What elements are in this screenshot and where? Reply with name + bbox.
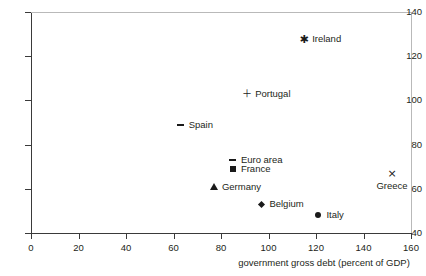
x-tick-mark — [79, 233, 80, 239]
data-point-label: Italy — [326, 210, 343, 220]
y-tick-mark — [25, 189, 31, 190]
x-tick-label: 60 — [159, 242, 189, 253]
plus-marker: ＋ — [242, 89, 252, 99]
y-tick-mark — [25, 100, 31, 101]
y-tick-label: 120 — [400, 51, 422, 61]
data-point-label: France — [241, 164, 271, 174]
y-tick-mark — [25, 56, 31, 57]
asterisk-marker: ✱ — [300, 33, 309, 44]
x-tick-label: 100 — [254, 242, 284, 253]
x-tick-label: 120 — [301, 242, 331, 253]
x-tick-mark — [31, 233, 32, 239]
x-tick-label: 40 — [111, 242, 141, 253]
x-axis-title: government gross debt (percent of GDP) — [231, 257, 417, 269]
x-tick-mark — [316, 233, 317, 239]
dash-marker — [229, 159, 236, 161]
x-tick-mark — [269, 233, 270, 239]
x-tick-label: 80 — [206, 242, 236, 253]
triangle-marker — [210, 183, 218, 190]
data-point-label: Germany — [222, 182, 261, 192]
x-tick-mark — [221, 233, 222, 239]
cross-marker: × — [387, 168, 396, 179]
data-point-label: Belgium — [269, 199, 303, 209]
x-tick-mark — [411, 233, 412, 239]
plot-frame-right — [411, 12, 412, 234]
y-tick-mark — [25, 145, 31, 146]
plot-frame-top — [31, 12, 411, 13]
y-axis-line — [31, 12, 32, 234]
data-point-label: Portugal — [255, 89, 290, 99]
x-tick-mark — [174, 233, 175, 239]
x-tick-mark — [126, 233, 127, 239]
diamond-marker — [258, 201, 265, 208]
y-tick-label: 100 — [400, 95, 422, 105]
x-tick-label: 0 — [16, 242, 46, 253]
y-tick-label: 80 — [400, 140, 422, 150]
circle-marker — [315, 212, 321, 218]
x-tick-mark — [364, 233, 365, 239]
data-point-label: Ireland — [312, 34, 341, 44]
x-tick-label: 20 — [64, 242, 94, 253]
data-point-label: Spain — [189, 120, 213, 130]
dash-marker — [177, 124, 184, 126]
x-tick-label: 140 — [349, 242, 379, 253]
y-tick-label: 140 — [400, 7, 422, 17]
y-tick-mark — [25, 12, 31, 13]
x-tick-label: 160 — [396, 242, 426, 253]
data-point-label: Greece — [376, 181, 407, 191]
square-marker — [230, 166, 236, 172]
